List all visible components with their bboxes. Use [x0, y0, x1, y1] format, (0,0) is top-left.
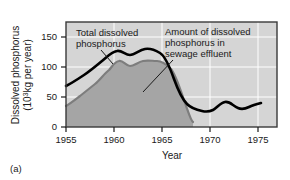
- annotation-sewage-line2: phosphorus in: [165, 37, 225, 48]
- panel-label: (a): [10, 163, 22, 174]
- annotation-total-line2: phosphorus: [76, 38, 126, 49]
- y-tick-label-100: 100: [41, 61, 57, 72]
- y-axis-title-line2: (103kg per year): [22, 39, 33, 111]
- x-tick-label-1955: 1955: [55, 134, 76, 145]
- x-tick-label-1975: 1975: [247, 134, 268, 145]
- y-axis-ticks: [61, 37, 66, 127]
- x-tick-label-1960: 1960: [103, 134, 124, 145]
- annotation-sewage-line1: Amount of dissolved: [165, 26, 251, 37]
- annotation-sewage-line3: sewage effluent: [165, 48, 232, 59]
- x-tick-label-1970: 1970: [199, 134, 220, 145]
- annotation-total-line1: Total dissolved: [76, 27, 138, 38]
- phosphorus-chart: 0 50 100 150 1955 1960 1965 1970 1975 Ye…: [0, 0, 290, 180]
- y-axis-title-line1: Dissolved phosphorus: [10, 26, 21, 124]
- x-tick-label-1965: 1965: [151, 134, 172, 145]
- y-tick-label-0: 0: [52, 121, 57, 132]
- figure-panel: 0 50 100 150 1955 1960 1965 1970 1975 Ye…: [0, 0, 290, 180]
- y-tick-label-50: 50: [46, 91, 57, 102]
- x-axis-ticks: [66, 127, 258, 132]
- y-tick-label-150: 150: [41, 31, 57, 42]
- y-axis-title-units-suffix: kg per year): [22, 39, 33, 92]
- y-axis-title-units-prefix: (10: [22, 96, 33, 111]
- x-axis-title: Year: [162, 150, 183, 161]
